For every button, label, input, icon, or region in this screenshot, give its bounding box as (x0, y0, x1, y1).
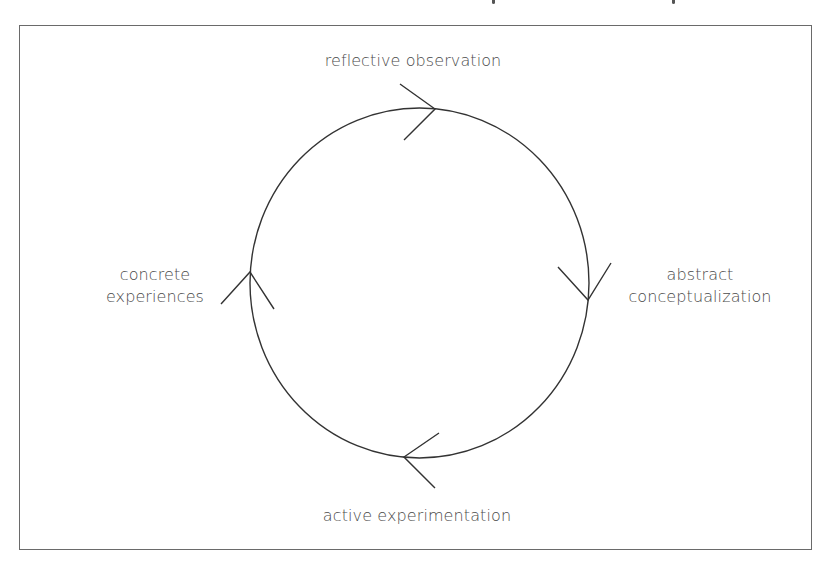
label-line: conceptualization (628, 286, 771, 308)
label-line: concrete (106, 264, 204, 286)
arrow-down-icon (558, 263, 611, 300)
label-line: abstract (628, 264, 771, 286)
label-line: experiences (106, 286, 204, 308)
stage-label-abstract-conceptualization: abstract conceptualization (628, 264, 771, 308)
arrow-up-icon (221, 272, 274, 309)
label-line: active experimentation (323, 505, 511, 527)
arrow-left-icon (404, 433, 439, 488)
cycle-circle (250, 108, 589, 458)
stage-label-concrete-experiences: concrete experiences (106, 264, 204, 308)
arrow-right-icon (400, 84, 435, 140)
stage-label-active-experimentation: active experimentation (323, 505, 511, 527)
label-line: reflective observation (325, 50, 502, 72)
stage-label-reflective-observation: reflective observation (325, 50, 502, 72)
